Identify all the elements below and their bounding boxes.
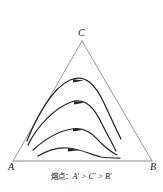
crystallization-curve-1-path	[27, 78, 121, 141]
figure-caption: 熔点：A′ > C′ > B′	[0, 173, 163, 182]
caption-relation: A′ > C′ > B′	[72, 172, 111, 181]
ternary-phase-diagram-figure: C A B 熔点：A′ > C′ > B′	[0, 0, 163, 192]
crystallization-path-curves	[27, 78, 121, 158]
crystallization-curve-3	[33, 128, 117, 155]
vertex-label-c: C	[78, 28, 85, 38]
vertex-label-b: B	[150, 162, 156, 172]
vertex-label-a: A	[8, 162, 14, 172]
caption-prefix: 熔点：	[51, 172, 72, 181]
crystallization-curve-1-arrowhead	[73, 79, 84, 82]
crystallization-curve-1	[27, 78, 121, 141]
triangle-edge-right	[82, 41, 152, 161]
crystallization-curve-3-path	[33, 129, 117, 155]
